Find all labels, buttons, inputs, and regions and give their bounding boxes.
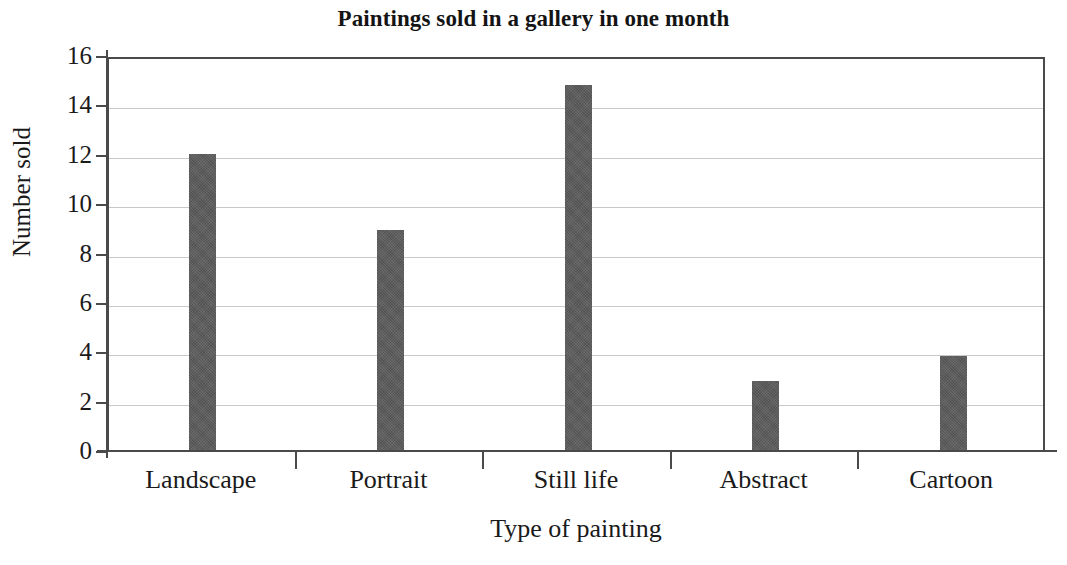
y-axis-tick bbox=[96, 402, 107, 404]
x-axis-tick-label: Still life bbox=[482, 466, 670, 495]
bar-still-life bbox=[565, 85, 592, 450]
x-axis-tick-label: Abstract bbox=[670, 466, 858, 495]
x-axis-tick-label: Landscape bbox=[107, 466, 295, 495]
y-axis-tick-label: 12 bbox=[46, 142, 92, 167]
y-axis-tick bbox=[96, 155, 107, 157]
x-axis-title: Type of painting bbox=[107, 514, 1045, 544]
x-axis-tick-label: Cartoon bbox=[857, 466, 1045, 495]
bar-landscape bbox=[189, 154, 216, 450]
y-axis-tick-label: 0 bbox=[46, 438, 92, 463]
bar-chart: Paintings sold in a gallery in one month… bbox=[0, 0, 1067, 565]
y-axis-tick-label: 2 bbox=[46, 389, 92, 414]
x-axis-tick-label: Portrait bbox=[295, 466, 483, 495]
bar-portrait bbox=[377, 230, 404, 450]
y-axis-tick-label: 4 bbox=[46, 339, 92, 364]
y-axis-tick-label: 14 bbox=[46, 92, 92, 117]
y-axis-tick bbox=[96, 352, 107, 354]
y-axis-tick-label: 8 bbox=[46, 241, 92, 266]
y-axis-tick bbox=[96, 204, 107, 206]
y-axis-tick bbox=[96, 303, 107, 305]
y-axis-tick-labels: 0246810121416 bbox=[36, 0, 92, 565]
y-axis-tick-label: 6 bbox=[46, 290, 92, 315]
y-axis-title: Number sold bbox=[8, 92, 36, 292]
bar-abstract bbox=[752, 381, 779, 450]
chart-title: Paintings sold in a gallery in one month bbox=[0, 6, 1067, 32]
y-axis-tick-label: 16 bbox=[46, 43, 92, 68]
plot-area bbox=[107, 57, 1045, 452]
y-axis-tick bbox=[96, 105, 107, 107]
y-axis-tick bbox=[96, 451, 107, 453]
y-axis-tick bbox=[96, 254, 107, 256]
plot-inner bbox=[109, 59, 1043, 450]
bar-cartoon bbox=[940, 356, 967, 450]
y-axis-tick-label: 10 bbox=[46, 191, 92, 216]
y-axis-tick bbox=[96, 56, 107, 58]
